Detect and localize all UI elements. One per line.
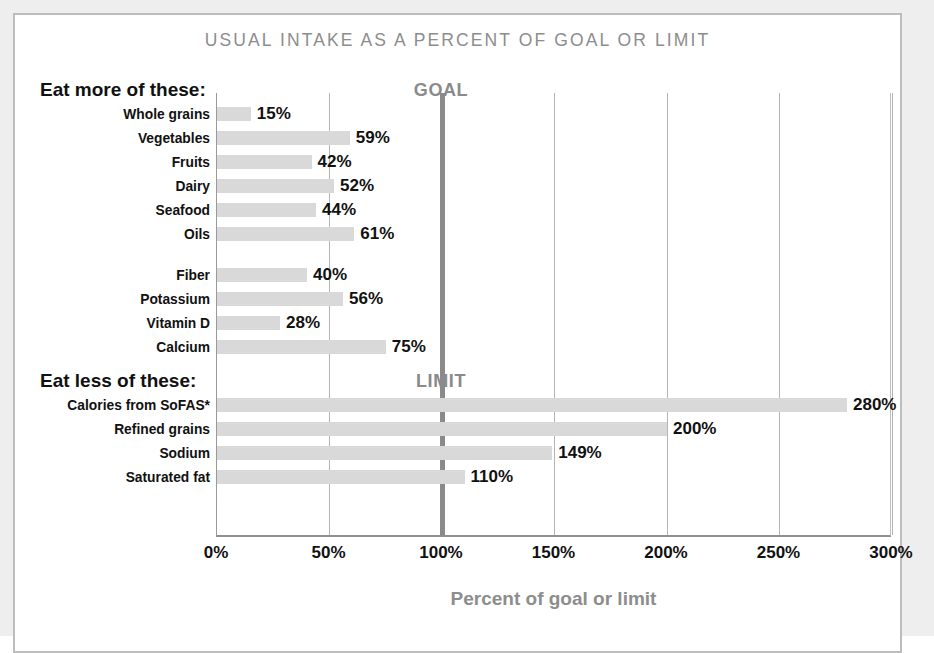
category-label: Vitamin D [26,316,210,330]
gridline-150 [554,93,555,535]
bar-value-label: 52% [340,179,374,193]
bar [217,203,316,217]
category-label: Oils [26,227,210,241]
x-axis-title: Percent of goal or limit [216,588,891,610]
bar-value-label: 200% [673,422,716,436]
bar-value-label: 110% [471,470,514,484]
gridline-200 [667,93,668,535]
bar-value-label: 149% [558,446,601,460]
bar [217,470,465,484]
bar [217,340,386,354]
bar-value-label: 28% [286,316,320,330]
category-label: Saturated fat [26,470,210,484]
category-label: Fruits [26,155,210,169]
x-tick-200: 200% [644,543,687,563]
bar-value-label: 40% [313,268,347,282]
reference-marker-limit: LIMIT [416,371,466,392]
page-title: USUAL INTAKE AS A PERCENT OF GOAL OR LIM… [17,30,898,51]
bar [217,227,354,241]
category-label: Calories from SoFAS* [26,398,210,412]
category-label: Fiber [26,268,210,282]
bar-value-label: 280% [853,398,896,412]
category-label: Vegetables [26,131,210,145]
bar [217,131,350,145]
reference-line-100 [440,93,445,535]
bar-value-label: 44% [322,203,356,217]
section-heading-eat-more: Eat more of these: [40,79,206,101]
x-tick-0: 0% [204,543,229,563]
x-tick-300: 300% [869,543,912,563]
bar [217,422,667,436]
bar [217,107,251,121]
gridline-250 [779,93,780,535]
bar [217,155,312,169]
reference-marker-goal: GOAL [414,80,468,101]
category-label: Calcium [26,340,210,354]
x-axis-tick-labels: 0%50%100%150%200%250%300% [216,543,891,569]
gridline-300 [892,93,893,535]
bar-value-label: 56% [349,292,383,306]
category-label: Seafood [26,203,210,217]
x-tick-50: 50% [311,543,345,563]
bar [217,398,847,412]
bar-value-label: 61% [360,227,394,241]
bar-value-label: 59% [356,131,390,145]
category-label: Dairy [26,179,210,193]
category-label: Potassium [26,292,210,306]
bar [217,292,343,306]
bar [217,446,552,460]
x-tick-100: 100% [419,543,462,563]
category-labels-column: Whole grainsVegetablesFruitsDairySeafood… [8,93,210,537]
x-tick-150: 150% [532,543,575,563]
x-tick-250: 250% [757,543,800,563]
section-heading-eat-less: Eat less of these: [40,370,196,392]
bar-value-label: 75% [392,340,426,354]
category-label: Whole grains [26,107,210,121]
chart-plot-area: 15%59%42%52%44%61%40%56%28%75%280%200%14… [216,93,891,537]
category-label: Refined grains [26,422,210,436]
bar [217,179,334,193]
bar [217,268,307,282]
bar [217,316,280,330]
bar-value-label: 15% [257,107,291,121]
bar-value-label: 42% [318,155,352,169]
category-label: Sodium [26,446,210,460]
